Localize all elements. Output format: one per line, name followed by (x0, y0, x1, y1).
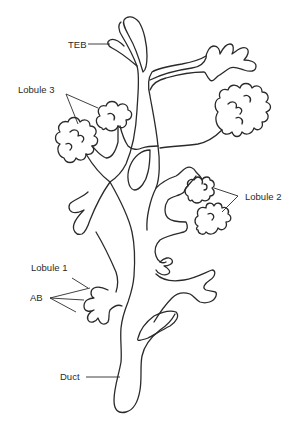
label-ab: AB (30, 293, 43, 303)
label-lobule2: Lobule 2 (245, 192, 281, 202)
lobule1-alveolar-buds (84, 287, 122, 324)
ductal-tree-diagram (0, 0, 302, 423)
lobule2-leader (214, 188, 238, 212)
label-teb: TEB (68, 40, 86, 50)
label-lobule1: Lobule 1 (31, 263, 67, 273)
lobule3-leader (66, 94, 98, 124)
lobule1-leader (72, 278, 88, 288)
right-lower-branch (154, 270, 216, 322)
lobule2-upper-cluster (185, 177, 214, 203)
lobule3-left-cluster (56, 118, 98, 163)
label-duct: Duct (60, 372, 80, 382)
lobule-right-stalk (160, 130, 222, 148)
lobule3-upper-cluster (96, 102, 131, 131)
label-lobule3: Lobule 3 (18, 85, 54, 95)
lobule2-lower-cluster (195, 203, 231, 234)
left-finger-branch (69, 182, 118, 292)
lobule2-branch (155, 167, 202, 263)
main-duct-outline (110, 22, 175, 413)
lobule-large-right (215, 84, 270, 137)
trunk-oval-branch (128, 150, 150, 190)
